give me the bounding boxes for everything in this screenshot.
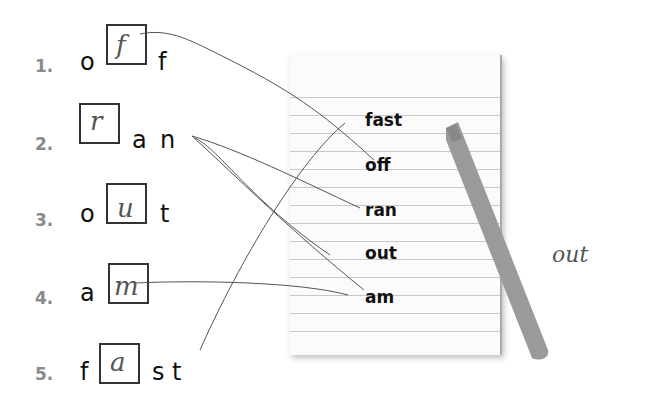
drawing-overlay	[0, 0, 647, 412]
line-fast	[200, 123, 345, 350]
marker-icon	[446, 122, 548, 360]
line-out	[195, 138, 330, 255]
line-off	[140, 32, 374, 160]
line-am	[135, 282, 348, 295]
handwritten-note: out	[552, 244, 588, 266]
line-ran-am	[192, 136, 364, 290]
match-lines	[135, 32, 374, 350]
line-ran	[192, 136, 360, 208]
